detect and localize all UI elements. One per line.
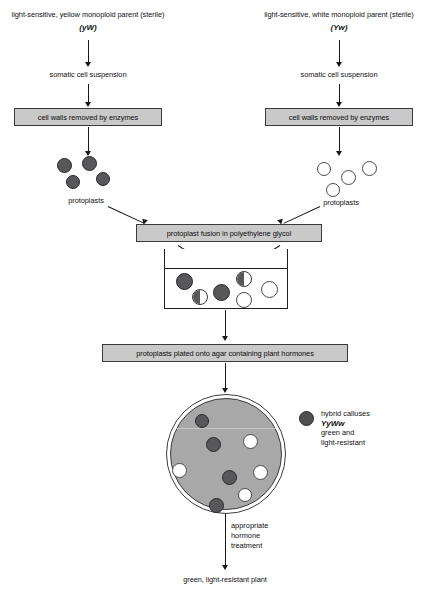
right-arrow-3-line	[339, 127, 340, 152]
right-protoplasts-label: protoplasts	[323, 198, 359, 208]
beaker-to-plating-arrowhead	[222, 336, 228, 341]
right-cell-walls-box: cell walls removed by enzymes	[265, 108, 413, 126]
legend-line-1: hybrid calluses	[321, 409, 370, 419]
beaker-parent-a-cell	[176, 273, 193, 290]
dish-parental-callus	[253, 465, 268, 480]
diagram-canvas: light-sensitive, yellow monoploid parent…	[0, 0, 448, 603]
right-arrow-2-head	[336, 102, 342, 107]
legend-genotype: YyWw	[321, 419, 370, 429]
legend-block: hybrid calluses YyWw green and light-res…	[321, 409, 370, 448]
right-parent-genotype: (Yw)	[331, 23, 348, 32]
left-protoplast-cell	[66, 175, 80, 189]
beaker-fused-hybrid-cell	[192, 289, 208, 305]
right-protoplast-cell	[341, 170, 356, 185]
dish-parental-callus	[243, 434, 258, 449]
legend-hybrid-callus-marker-icon	[299, 411, 314, 426]
dish-parental-callus	[172, 463, 187, 478]
left-arrow-1-head	[85, 62, 91, 67]
right-protoplast-cell	[326, 183, 340, 197]
left-parent-genotype: (yW)	[79, 23, 96, 32]
hormone-treatment-line-3: treatment	[231, 541, 268, 551]
left-converge-line	[108, 206, 145, 224]
left-protoplast-cell	[82, 156, 97, 171]
beaker-fused-hybrid-cell	[236, 271, 252, 287]
beaker-parent-a-cell	[213, 284, 230, 301]
final-product-label: green, light-resistant plant	[183, 575, 267, 585]
left-cell-walls-box: cell walls removed by enzymes	[14, 108, 162, 126]
right-arrow-1-head	[336, 62, 342, 67]
right-parent-label: light-sensitive, white monoploid parent …	[264, 10, 414, 20]
fusion-step-box: protoplast fusion in polyethylene glycol	[136, 224, 322, 242]
dish-hybrid-callus	[222, 470, 237, 485]
right-converge-line	[284, 206, 321, 224]
left-arrow-3-line	[88, 127, 89, 152]
left-arrow-1-line	[88, 40, 89, 63]
left-protoplasts-label: protoplasts	[68, 196, 104, 206]
plating-step-box: protoplasts plated onto agar containing …	[102, 344, 348, 362]
beaker-parent-b-cell	[261, 281, 278, 298]
petri-dish-agar	[170, 398, 282, 510]
right-somatic-suspension-label: somatic cell suspension	[301, 70, 378, 80]
petri-dish-rim-highlight	[176, 428, 276, 429]
left-arrow-2-line	[88, 84, 89, 103]
right-arrow-2-line	[339, 84, 340, 103]
beaker-to-plating-line	[225, 310, 226, 337]
dish-to-plant-line	[225, 514, 226, 566]
right-arrow-1-line	[339, 40, 340, 63]
left-arrow-2-head	[85, 102, 91, 107]
right-protoplast-cell	[317, 162, 331, 176]
dish-hybrid-callus	[209, 498, 224, 513]
left-parent-label: light-sensitive, yellow monoploid parent…	[12, 10, 165, 20]
dish-hybrid-callus	[206, 437, 221, 452]
hormone-treatment-annotation: appropriate hormone treatment	[231, 521, 268, 551]
beaker-parent-b-cell	[236, 292, 252, 308]
right-arrow-3-head	[336, 151, 342, 156]
plating-to-dish-arrowhead	[222, 388, 228, 393]
hormone-treatment-line-1: appropriate	[231, 521, 268, 531]
legend-line-3: green and	[321, 428, 370, 438]
legend-line-4: light-resistant	[321, 438, 370, 448]
left-protoplast-cell	[57, 158, 72, 173]
plating-to-dish-line	[225, 363, 226, 389]
dish-parental-callus	[238, 488, 252, 502]
left-somatic-suspension-label: somatic cell suspension	[50, 70, 127, 80]
beaker-liquid-line	[164, 268, 288, 269]
left-protoplast-cell	[96, 172, 110, 186]
dish-hybrid-callus	[195, 414, 209, 428]
hormone-treatment-line-2: hormone	[231, 531, 268, 541]
right-protoplast-cell	[362, 161, 377, 176]
dish-to-plant-arrowhead	[222, 565, 228, 570]
